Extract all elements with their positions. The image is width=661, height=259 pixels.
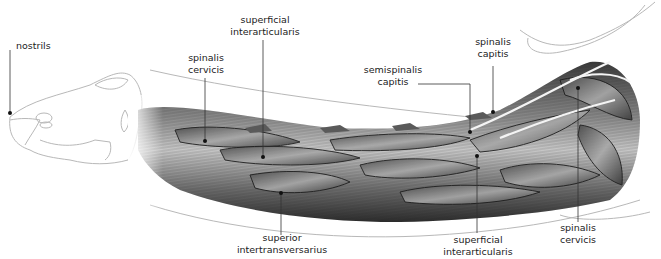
label-spinalis-cervicis-bottom: spinalis cervicis — [553, 222, 603, 246]
label-superficial-interarticularis-top: superficial interarticularis — [228, 14, 302, 38]
skull-outline — [10, 73, 142, 164]
label-superficial-interarticularis-bottom: superficial interarticularis — [440, 234, 516, 258]
illustration — [0, 0, 661, 259]
label-semispinalis-capitis: semispinalis capitis — [360, 64, 426, 88]
label-superior-intertransversarius: superior intertransversarius — [236, 232, 328, 256]
label-spinalis-cervicis-top: spinalis cervicis — [180, 52, 232, 76]
label-nostrils: nostrils — [16, 40, 51, 52]
neck-muscle-diagram: nostrils spinalis cervicis superficial i… — [0, 0, 661, 259]
label-spinalis-capitis: spinalis capitis — [470, 36, 516, 60]
